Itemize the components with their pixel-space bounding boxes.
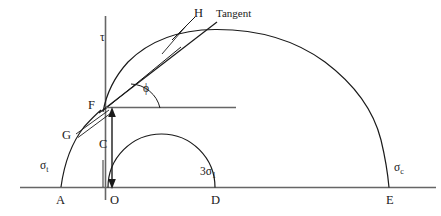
point-label-h: H [194,7,203,20]
point-label-a: A [56,194,65,207]
sigma-t-subscript: t [46,165,48,174]
g-leader-line-upper [76,110,109,134]
three-sigma-one-label: 3σ1 [200,166,216,180]
three-sigma-subscript: 1 [212,171,216,180]
point-label-o: O [110,194,119,207]
point-label-f: F [88,99,95,112]
three-sigma-symbol: 3σ [200,165,212,177]
tension-circle-arc [61,110,101,187]
sigma-t-label: σt [40,160,48,174]
compression-circle-arc [103,29,389,187]
mohr-circle-diagram: τ H Tangent ϕ F G C σt 3σ1 σc A O D E [0,0,441,216]
point-label-d: D [211,194,220,207]
middle-circle-arc [108,134,215,188]
tau-axis-label: τ [100,32,105,44]
c-dimension-arrowhead-top [108,107,116,117]
sigma-c-subscript: c [400,167,404,176]
sigma-c-label: σc [394,162,404,176]
phi-angle-label: ϕ [143,83,149,95]
tangent-label: Tangent [216,8,251,19]
point-label-g: G [62,129,71,142]
point-label-c: C [99,138,107,151]
h-pointer-line [162,26,186,54]
point-label-e: E [386,194,394,207]
diagram-canvas [0,0,441,216]
